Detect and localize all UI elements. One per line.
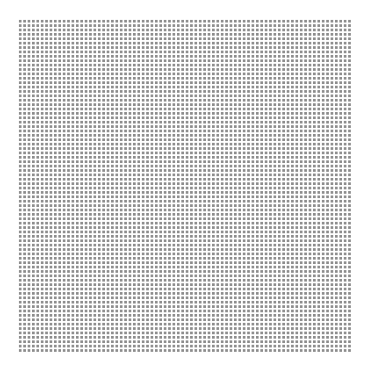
dot-grid-pattern (18, 19, 352, 353)
canvas (0, 0, 368, 366)
